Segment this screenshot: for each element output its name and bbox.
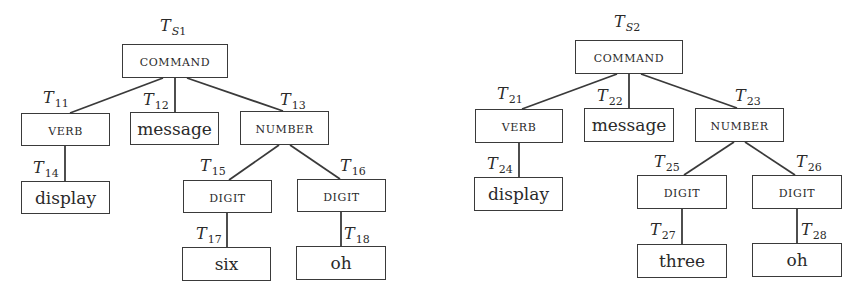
tree-edge bbox=[290, 145, 340, 179]
node-text: display bbox=[488, 184, 549, 204]
subtree-label: T15 bbox=[200, 156, 226, 178]
subtree-label: T17 bbox=[196, 224, 222, 246]
tree-node-w1: three bbox=[637, 244, 727, 278]
subtree-label: T25 bbox=[654, 152, 680, 174]
subtree-label: T24 bbox=[487, 154, 513, 176]
node-text: DIGIT bbox=[779, 183, 816, 201]
node-text: six bbox=[215, 254, 239, 274]
tree-node-num: NUMBER bbox=[695, 108, 784, 142]
subtree-label: T28 bbox=[801, 220, 827, 242]
tree-edge bbox=[745, 142, 795, 175]
root-tree-label: TS2 bbox=[614, 12, 640, 34]
node-text: NUMBER bbox=[710, 116, 768, 134]
subtree-label: T14 bbox=[33, 158, 59, 180]
tree-node-verb: VERB bbox=[475, 109, 563, 143]
node-text: oh bbox=[330, 253, 351, 273]
subtree-label: T21 bbox=[497, 84, 523, 106]
subtree-label: T26 bbox=[796, 152, 822, 174]
node-text: DIGIT bbox=[209, 188, 246, 206]
subtree-label: T11 bbox=[43, 88, 69, 110]
tree-node-disp: display bbox=[474, 177, 563, 211]
tree-node-dig1: DIGIT bbox=[183, 180, 272, 213]
tree-node-num: NUMBER bbox=[240, 111, 329, 145]
tree-node-w1: six bbox=[182, 247, 271, 281]
node-text: NUMBER bbox=[255, 119, 313, 137]
node-text: display bbox=[35, 188, 96, 208]
node-text: COMMAND bbox=[594, 48, 665, 66]
tree-edge bbox=[641, 74, 737, 108]
node-text: VERB bbox=[48, 121, 83, 139]
node-text: message bbox=[137, 119, 212, 139]
subtree-label: T13 bbox=[280, 90, 306, 112]
node-text: DIGIT bbox=[664, 183, 701, 201]
node-text: VERB bbox=[502, 117, 537, 135]
tree-node-cmd: COMMAND bbox=[575, 40, 683, 74]
node-text: DIGIT bbox=[323, 187, 360, 205]
subtree-label: T23 bbox=[735, 86, 761, 108]
tree-node-dig1: DIGIT bbox=[637, 175, 727, 209]
tree-node-verb: VERB bbox=[21, 113, 110, 146]
node-text: three bbox=[659, 251, 705, 271]
tree-edge bbox=[229, 145, 279, 180]
subtree-label: T12 bbox=[143, 90, 169, 112]
root-tree-label: TS1 bbox=[160, 16, 186, 38]
tree-edge bbox=[684, 142, 734, 175]
subtree-label: T18 bbox=[344, 224, 370, 246]
node-text: message bbox=[592, 115, 667, 135]
node-text: COMMAND bbox=[140, 52, 211, 70]
tree-edge bbox=[187, 78, 283, 111]
tree-node-w2: oh bbox=[752, 243, 842, 277]
subtree-label: T22 bbox=[597, 86, 623, 108]
tree-node-dig2: DIGIT bbox=[752, 175, 842, 209]
tree-node-cmd: COMMAND bbox=[122, 44, 228, 78]
tree-node-msg: message bbox=[130, 112, 219, 145]
tree-node-disp: display bbox=[21, 181, 110, 214]
tree-node-w2: oh bbox=[296, 246, 386, 280]
tree-node-dig2: DIGIT bbox=[297, 179, 386, 212]
subtree-label: T27 bbox=[650, 220, 676, 242]
node-text: oh bbox=[786, 250, 807, 270]
subtree-label: T16 bbox=[340, 156, 366, 178]
tree-node-msg: message bbox=[584, 108, 674, 142]
